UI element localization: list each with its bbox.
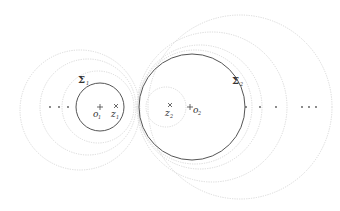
right-inner-dotted-circle — [146, 87, 186, 127]
left-ellipsis — [49, 106, 69, 108]
o1-label-sub: 1 — [98, 114, 101, 120]
left-outer-dotted-circle — [20, 50, 140, 170]
sigma1-label-sub: 1 — [86, 80, 89, 86]
sigma2-label-sub: 2 — [239, 81, 243, 87]
z2-label-sub: 2 — [169, 113, 173, 119]
z2-cross-marker — [168, 103, 172, 107]
right-ellipsis-inner — [245, 106, 277, 108]
left-mid-dotted-circle — [40, 59, 136, 155]
z1-cross-marker — [114, 104, 118, 108]
right-mid-dotted-circle — [137, 32, 287, 182]
sigma2-label: Σ — [232, 75, 239, 86]
right-near-dotted-circle — [138, 45, 262, 169]
o2-label-sub: 2 — [197, 110, 201, 116]
right-outer-dotted-circle — [148, 15, 332, 199]
sigma1-label: Σ — [78, 74, 85, 85]
z1-label-sub: 1 — [116, 114, 119, 120]
right-ellipsis-outer — [301, 106, 317, 108]
nested-circles-diagram: Σ 1 o 1 z 1 Σ 2 o 2 z 2 — [0, 0, 340, 211]
